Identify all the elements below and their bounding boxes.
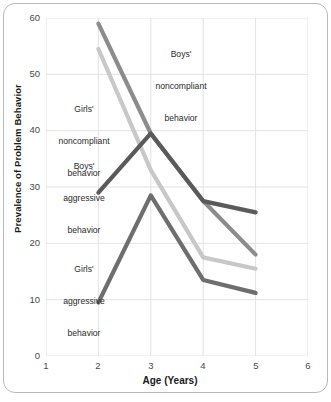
chart-figure: Prevalence of Problem Behavior Age (Year… (0, 0, 331, 402)
y-tick-20: 20 (10, 237, 40, 248)
x-axis-title: Age (Years) (40, 375, 300, 386)
x-tick-2: 2 (86, 360, 110, 371)
annotation-girls-aggressive: Girls' aggressive behavior (41, 243, 127, 360)
annotation-line: Boys' (135, 49, 227, 60)
y-tick-10: 10 (10, 294, 40, 305)
annotation-line: behavior (135, 113, 227, 124)
y-axis-title: Prevalence of Problem Behavior (12, 69, 23, 249)
x-tick-3: 3 (139, 360, 163, 371)
x-tick-5: 5 (244, 360, 268, 371)
annotation-line: Boys' (41, 161, 127, 172)
annotation-line: behavior (41, 225, 127, 236)
annotation-line: aggressive (41, 193, 127, 204)
annotation-line: Girls' (41, 264, 127, 275)
y-tick-50: 50 (10, 68, 40, 79)
x-tick-6: 6 (296, 360, 320, 371)
annotation-line: behavior (41, 328, 127, 339)
annotation-boys-noncompliant: Boys' noncompliant behavior (135, 28, 227, 145)
annotation-line: noncompliant (135, 81, 227, 92)
annotation-line: Girls' (38, 104, 130, 115)
annotation-line: aggressive (41, 296, 127, 307)
x-tick-1: 1 (34, 360, 58, 371)
y-tick-40: 40 (10, 124, 40, 135)
y-tick-60: 60 (10, 12, 40, 23)
annotation-boys-aggressive: Boys' aggressive behavior (41, 140, 127, 257)
x-tick-4: 4 (191, 360, 215, 371)
y-tick-30: 30 (10, 181, 40, 192)
